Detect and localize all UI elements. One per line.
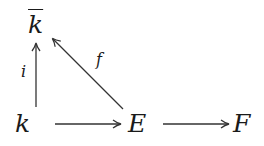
node-k: k	[15, 111, 30, 136]
arrow-f	[53, 39, 123, 109]
commutative-diagram: k k E F i f	[0, 0, 264, 146]
node-E: E	[128, 111, 146, 136]
node-k-bar: k	[28, 12, 43, 37]
arrow-label-f: f	[96, 52, 102, 68]
node-F: F	[233, 111, 250, 136]
arrow-label-i: i	[21, 64, 26, 80]
